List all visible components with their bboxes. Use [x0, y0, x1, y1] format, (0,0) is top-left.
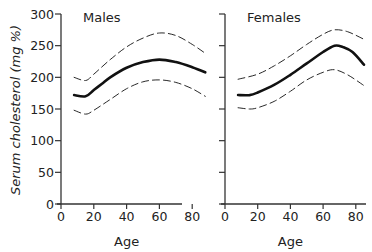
x-tick-label: 0: [57, 209, 65, 224]
y-tick-label: 300: [30, 7, 54, 22]
x-tick-label: 40: [282, 209, 298, 224]
x-axis-label: Age: [114, 234, 139, 249]
y-tick-label: 150: [30, 102, 54, 117]
x-tick-label: 20: [250, 209, 266, 224]
series-lower-line: [74, 80, 205, 114]
x-tick-label: 80: [348, 209, 364, 224]
series-mean-line: [74, 60, 205, 97]
series-lower-line: [238, 70, 364, 109]
panel-title: Females: [247, 10, 301, 25]
y-tick-label: 50: [38, 165, 54, 180]
series-upper-line: [238, 30, 364, 80]
x-axis-label: Age: [278, 234, 303, 249]
panel-title: Males: [83, 10, 121, 25]
y-tick-label: 200: [30, 70, 54, 85]
y-tick-label: 0: [46, 197, 54, 212]
y-tick-label: 250: [30, 38, 54, 53]
x-tick-label: 80: [184, 209, 200, 224]
series-mean-line: [238, 45, 364, 95]
chart: Serum cholesterol (mg %) 050100150200250…: [0, 0, 372, 252]
series-upper-line: [74, 33, 205, 81]
x-tick-label: 40: [119, 209, 135, 224]
x-tick-label: 20: [86, 209, 102, 224]
panel-males: 050100150200250300020406080AgeMales: [30, 7, 205, 250]
y-axis-label: Serum cholesterol (mg %): [8, 25, 23, 195]
x-tick-label: 60: [151, 209, 167, 224]
x-tick-label: 60: [315, 209, 331, 224]
x-tick-label: 0: [221, 209, 229, 224]
panel-females: 020406080AgeFemales: [219, 10, 366, 249]
y-tick-label: 100: [30, 133, 54, 148]
